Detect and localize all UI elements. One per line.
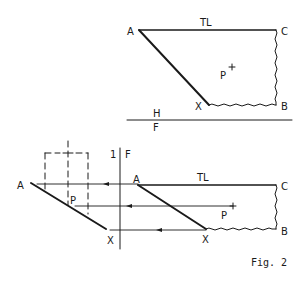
top-vertex-c-label: C xyxy=(281,26,288,37)
front-point-p-label: P xyxy=(221,210,227,221)
top-true-length-label: TL xyxy=(199,17,212,28)
top-edge-x-b-wavy xyxy=(209,104,276,106)
top-vertex-a-label: A xyxy=(127,26,134,37)
top-edge-a-x xyxy=(139,30,209,105)
front-vertex-b-label: B xyxy=(281,226,288,237)
aux-vertex-a-label: A xyxy=(17,180,24,191)
fold-f-label-vertical: F xyxy=(125,149,131,160)
projection-arrowheads xyxy=(103,182,162,232)
arrow-left-icon xyxy=(156,228,162,232)
front-vertex-x-label: X xyxy=(202,234,209,245)
aux-point-p-label: P xyxy=(70,195,76,206)
figure-caption: Fig. 2 xyxy=(251,257,287,268)
top-point-p-marker xyxy=(229,64,235,70)
top-view xyxy=(139,30,277,106)
front-edge-x-b-wavy xyxy=(206,228,276,230)
top-vertex-x-label: X xyxy=(195,101,202,112)
front-vertex-a-label: A xyxy=(133,174,140,185)
descriptive-geometry-figure: A TL C B X P H F 1 F A TL C B X P A P X … xyxy=(0,0,307,285)
front-edge-c-b-wavy xyxy=(275,185,277,229)
arrow-left-icon xyxy=(103,182,109,186)
top-point-p-label: P xyxy=(220,70,226,81)
aux-hidden-box-dashed xyxy=(45,141,88,214)
aux-vertex-x-label: X xyxy=(107,235,114,246)
fold-1-label: 1 xyxy=(110,149,116,160)
fold-f-label: F xyxy=(153,122,159,133)
front-vertex-c-label: C xyxy=(281,181,288,192)
arrow-left-icon xyxy=(126,204,132,208)
front-true-length-label: TL xyxy=(196,172,209,183)
front-view xyxy=(138,185,277,230)
front-edge-a-x xyxy=(138,185,206,229)
auxiliary-view xyxy=(31,141,106,229)
fold-h-label: H xyxy=(153,108,161,119)
top-vertex-b-label: B xyxy=(281,101,288,112)
top-edge-c-b-wavy xyxy=(275,30,277,105)
projection-lines xyxy=(37,184,233,230)
